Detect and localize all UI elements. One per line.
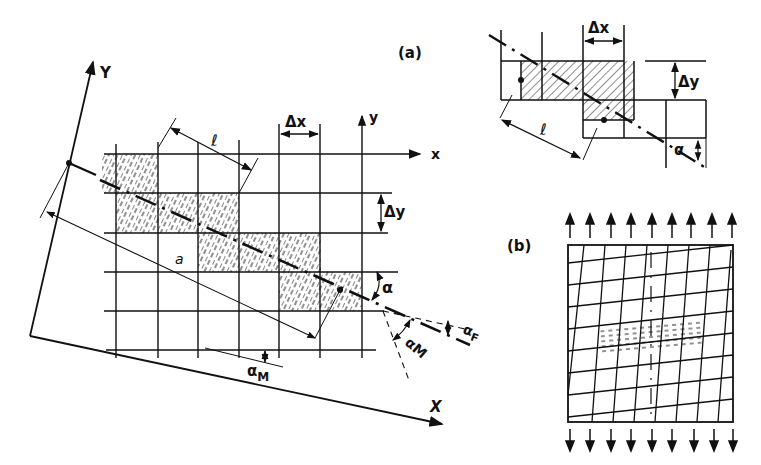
- inset-alpha-label: α: [674, 141, 684, 159]
- a-extension-origin: [40, 163, 69, 218]
- alpha-label: α: [382, 278, 393, 297]
- local-y-axis-label: y: [369, 109, 378, 125]
- inset-point-1: [518, 77, 524, 83]
- figure-canvas: x y Δx Δy ℓ a Y X α αM: [0, 0, 761, 465]
- panel-b-bottom-tension-arrows: [566, 429, 737, 451]
- inset-l-ext-right: [583, 128, 597, 160]
- l-extension-right: [239, 158, 258, 193]
- l-label: ℓ: [210, 131, 218, 150]
- alpha-arc: [372, 272, 379, 300]
- panel-a-main: x y Δx Δy ℓ a Y X α αM: [30, 44, 483, 424]
- alpha-m-bottom-label: αM: [247, 362, 269, 384]
- local-x-axis-label: x: [431, 146, 440, 162]
- global-y-axis: [30, 62, 93, 336]
- global-x-axis-label: X: [429, 398, 443, 416]
- alpha-f-dashed-line: [383, 311, 470, 330]
- panel-b: (b): [507, 214, 737, 451]
- inset-dx-label: Δx: [588, 19, 610, 37]
- grid-vertical-lines: [116, 116, 362, 358]
- inset-hatched-top: [521, 61, 634, 100]
- global-y-axis-label: Y: [99, 64, 112, 82]
- panel-b-label: (b): [507, 237, 531, 255]
- alpha-m-bottom-reference: [205, 348, 283, 367]
- inset-point-2: [601, 117, 607, 123]
- inset-l-ext-left: [500, 95, 512, 118]
- inset-hatched-bottom: [583, 100, 634, 120]
- inset-l-label: ℓ: [539, 120, 547, 139]
- band-start-tick: [69, 163, 96, 175]
- panel-a-label: (a): [398, 44, 422, 62]
- band-point-marker: [337, 287, 343, 293]
- panel-b-top-tension-arrows: [566, 214, 736, 238]
- inset-dy-label: Δy: [678, 73, 700, 91]
- l-extension-left: [158, 118, 176, 148]
- alpha-m-right-label: αM: [402, 334, 430, 361]
- dx-label: Δx: [285, 113, 307, 131]
- a-label: a: [175, 251, 184, 267]
- dy-label: Δy: [384, 203, 406, 221]
- alpha-m-right-arc: [393, 320, 410, 340]
- panel-a-inset: Δx Δy ℓ α: [489, 19, 706, 168]
